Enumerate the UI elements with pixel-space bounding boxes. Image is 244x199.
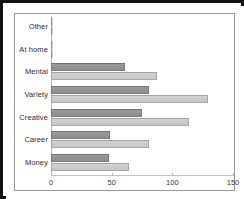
bar-career-series-2 [51,140,149,148]
chart-frame-inner: OtherAt homeMentalVarietyCreativeCareerM… [6,6,244,199]
x-tick-label-150: 150 [227,178,240,187]
category-label-money: Money [4,158,48,167]
x-tick-mark-0 [51,173,52,176]
category-label-at-home: At home [4,45,48,54]
bar-creative-series-1 [51,109,142,117]
category-label-mental: Mental [4,67,48,76]
category-label-variety: Variety [4,90,48,99]
x-tick-label-100: 100 [166,178,179,187]
category-label-career: Career [4,135,48,144]
bar-group [51,154,233,172]
bar-group [51,131,233,149]
category-label-creative: Creative [4,113,48,122]
bar-group [51,41,233,59]
bar-money-series-2 [51,163,129,171]
bar-group [51,86,233,104]
x-axis-tick-labels: 050100150 [51,176,233,192]
bar-mental-series-1 [51,63,125,71]
x-tick-mark-150 [233,173,234,176]
bar-other-series-1 [51,18,53,26]
x-tick-label-0: 0 [49,178,53,187]
bar-career-series-1 [51,131,110,139]
bar-at-home-series-1 [51,41,53,49]
bar-creative-series-2 [51,118,189,126]
plot-area [51,16,233,174]
chart-outer-frame: OtherAt homeMentalVarietyCreativeCareerM… [0,0,244,199]
bar-group [51,18,233,36]
bar-mental-series-2 [51,72,157,80]
x-tick-label-50: 50 [107,178,115,187]
bar-other-series-2 [51,27,53,35]
x-tick-mark-100 [172,173,173,176]
bar-variety-series-1 [51,86,149,94]
category-label-other: Other [4,22,48,31]
bar-money-series-1 [51,154,109,162]
bar-group [51,109,233,127]
category-axis-labels: OtherAt homeMentalVarietyCreativeCareerM… [6,16,48,174]
bar-variety-series-2 [51,95,208,103]
x-tick-mark-50 [112,173,113,176]
bar-group [51,63,233,81]
bar-at-home-series-2 [51,50,53,58]
